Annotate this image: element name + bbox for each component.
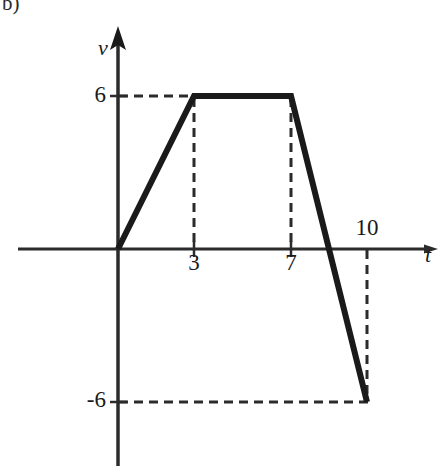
- y-tick-label-6: 6: [80, 82, 106, 108]
- velocity-time-graph-figure: b): [0, 0, 439, 466]
- y-axis-label: v: [98, 35, 108, 61]
- x-tick-label-7: 7: [278, 250, 304, 276]
- y-tick-label-neg6: -6: [63, 387, 106, 413]
- x-tick-label-10: 10: [346, 215, 388, 241]
- x-axis-label: t: [425, 242, 431, 268]
- x-tick-label-3: 3: [181, 250, 207, 276]
